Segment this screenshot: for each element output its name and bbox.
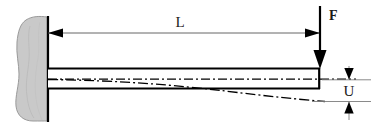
force-arrow: F	[314, 6, 338, 69]
beam-fill	[48, 68, 320, 89]
deflection-dimension: U	[312, 66, 371, 120]
force-label: F	[329, 8, 338, 23]
wall-fill-shape	[16, 16, 47, 121]
cantilever-beam-diagram: L F U	[0, 0, 373, 132]
length-arrowhead-left	[48, 29, 63, 38]
deflection-arrowhead-top	[344, 68, 353, 80]
force-arrowhead	[314, 50, 327, 69]
deflection-label: U	[344, 83, 355, 99]
length-arrowhead-right	[305, 29, 320, 38]
fixed-support-wall	[16, 16, 47, 121]
diagram-canvas: L F U	[0, 0, 373, 132]
deflection-arrowhead-bottom	[344, 102, 353, 114]
length-dimension: L	[48, 14, 320, 38]
beam-body	[48, 68, 320, 89]
length-label: L	[175, 14, 184, 30]
